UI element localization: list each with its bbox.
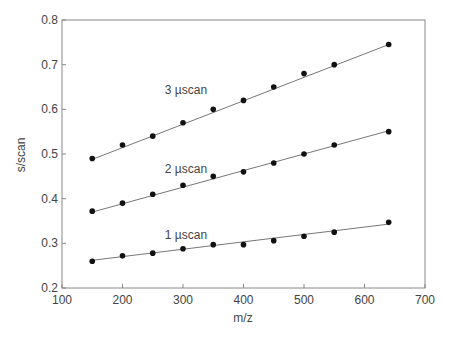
plot-area	[62, 20, 425, 288]
data-series: 2 µscan	[89, 129, 391, 214]
data-point	[386, 220, 392, 226]
series-group: 3 µscan2 µscan1 µscan	[89, 42, 391, 264]
data-point	[241, 98, 247, 104]
x-tick-label: 100	[52, 293, 72, 307]
series-annotation: 3 µscan	[165, 83, 207, 97]
y-tick-label: 0.3	[41, 236, 58, 250]
series-annotation: 2 µscan	[165, 162, 207, 176]
data-series: 1 µscan	[89, 220, 391, 264]
data-point	[180, 246, 186, 252]
y-axis-label: s/scan	[14, 138, 28, 173]
data-point	[271, 238, 277, 244]
data-point	[331, 229, 337, 235]
x-tick-label: 300	[173, 293, 193, 307]
data-point	[89, 208, 95, 214]
x-tick-label: 200	[112, 293, 132, 307]
y-tick-label: 0.6	[41, 102, 58, 116]
data-point	[271, 84, 277, 90]
data-point	[150, 250, 156, 256]
y-tick-label: 0.5	[41, 147, 58, 161]
y-tick-label: 0.4	[41, 192, 58, 206]
data-series: 3 µscan	[89, 42, 391, 162]
data-point	[301, 71, 307, 77]
x-axis: 100200300400500600700	[52, 284, 435, 307]
fit-line	[92, 131, 388, 212]
data-point	[386, 129, 392, 135]
data-point	[331, 62, 337, 68]
series-annotation: 1 µscan	[165, 228, 207, 242]
data-point	[89, 258, 95, 264]
fit-line	[92, 45, 388, 160]
data-point	[120, 200, 126, 206]
x-tick-label: 700	[415, 293, 435, 307]
data-point	[386, 42, 392, 48]
scatter-chart: 100200300400500600700 0.20.30.40.50.60.7…	[0, 0, 451, 337]
data-point	[241, 169, 247, 175]
x-tick-label: 600	[354, 293, 374, 307]
x-axis-label: m/z	[233, 311, 252, 325]
data-point	[89, 156, 95, 162]
x-tick-label: 400	[233, 293, 253, 307]
data-point	[120, 142, 126, 148]
x-tick-label: 500	[294, 293, 314, 307]
data-point	[210, 242, 216, 248]
data-point	[210, 174, 216, 180]
data-point	[301, 151, 307, 157]
data-point	[180, 182, 186, 188]
fit-line	[92, 224, 388, 260]
y-tick-label: 0.7	[41, 58, 58, 72]
data-point	[150, 191, 156, 197]
data-point	[150, 133, 156, 139]
data-point	[180, 120, 186, 126]
data-point	[271, 160, 277, 166]
data-point	[120, 253, 126, 259]
data-point	[241, 242, 247, 248]
y-tick-label: 0.2	[41, 281, 58, 295]
data-point	[210, 107, 216, 113]
data-point	[331, 142, 337, 148]
data-point	[301, 233, 307, 239]
y-tick-label: 0.8	[41, 13, 58, 27]
